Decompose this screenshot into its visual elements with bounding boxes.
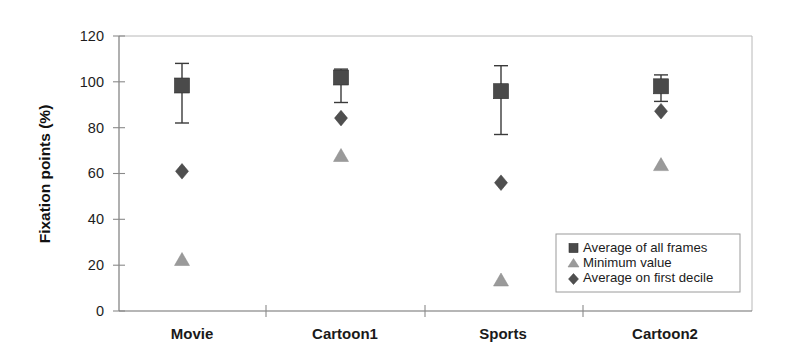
- marker-average-all-frames-movie: [175, 78, 190, 93]
- marker-average-all-frames-cartoon1: [334, 70, 349, 85]
- legend-label-average-first-decile: Average on first decile: [583, 270, 713, 285]
- legend: Average of all frames Minimum value Aver…: [556, 234, 740, 292]
- legend-label-average-all-frames: Average of all frames: [583, 240, 708, 255]
- y-tick-label-80: 80: [88, 120, 104, 136]
- marker-minimum-value-sports: [494, 273, 509, 286]
- x-axis-labels: Movie Cartoon1 Sports Cartoon2: [171, 325, 698, 342]
- marker-minimum-value-movie: [175, 253, 190, 266]
- marker-average-all-frames-cartoon2: [654, 79, 669, 94]
- y-axis-title: Fixation points (%): [36, 105, 53, 244]
- figure-root: 120 100 80 60 40 20 0 Movie Cartoon1 Spo…: [0, 0, 789, 358]
- data-group-cartoon2: [654, 75, 669, 171]
- legend-label-minimum-value: Minimum value: [583, 255, 672, 270]
- y-tick-label-20: 20: [88, 257, 104, 273]
- data-group-cartoon1: [334, 69, 349, 161]
- data-group-sports: [494, 66, 509, 286]
- x-tick-label-sports: Sports: [479, 325, 527, 342]
- legend-square-marker-icon: [569, 244, 578, 253]
- y-tick-label-100: 100: [80, 74, 104, 90]
- y-tick-label-120: 120: [80, 28, 104, 44]
- marker-average-all-frames-sports: [494, 84, 509, 99]
- x-tick-label-cartoon1: Cartoon1: [312, 325, 378, 342]
- marker-average-first-decile-cartoon2: [655, 103, 668, 119]
- marker-average-first-decile-movie: [176, 164, 189, 180]
- marker-average-first-decile-cartoon1: [335, 110, 348, 126]
- data-group-movie: [175, 63, 190, 265]
- marker-average-first-decile-sports: [495, 175, 508, 191]
- y-axis-ticks: 120 100 80 60 40 20 0: [80, 28, 125, 319]
- y-tick-label-60: 60: [88, 165, 104, 181]
- y-tick-label-40: 40: [88, 211, 104, 227]
- y-tick-label-0: 0: [96, 303, 104, 319]
- x-tick-label-cartoon2: Cartoon2: [632, 325, 698, 342]
- chart-canvas: 120 100 80 60 40 20 0 Movie Cartoon1 Spo…: [0, 0, 789, 358]
- marker-minimum-value-cartoon1: [334, 149, 349, 162]
- marker-minimum-value-cartoon2: [654, 158, 669, 171]
- x-tick-label-movie: Movie: [171, 325, 214, 342]
